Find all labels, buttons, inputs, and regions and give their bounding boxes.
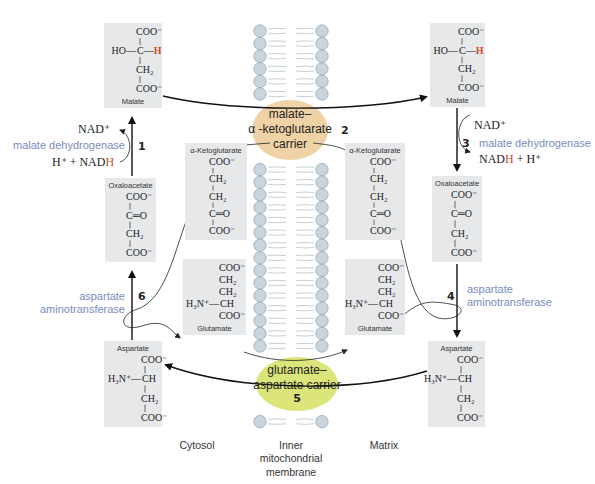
lipid-tail bbox=[268, 91, 286, 92]
structure-row: C═O bbox=[126, 210, 147, 221]
lipid-tail bbox=[268, 84, 286, 85]
structure-row: CH₂ bbox=[370, 191, 387, 202]
molecule-name: Glutamate bbox=[358, 324, 393, 333]
reaction-4: 4 aspartate aminotransferase bbox=[447, 283, 552, 308]
step-number-2: 2 bbox=[341, 124, 349, 137]
lipid-head-icon bbox=[316, 277, 328, 289]
lipid-tail bbox=[296, 79, 314, 80]
structure-row: COO⁻ bbox=[458, 26, 484, 37]
structure-substituent: H₃N⁺— bbox=[424, 373, 458, 384]
lipid-head-icon bbox=[254, 239, 266, 251]
region-label-matrix: Matrix bbox=[370, 439, 399, 451]
structure-row: CH₂ bbox=[378, 286, 395, 297]
lipid-tail bbox=[268, 222, 286, 223]
lipid-tail bbox=[296, 424, 314, 425]
structure-row: COO⁻ bbox=[458, 82, 484, 93]
reaction-6: aspartate aminotransferase 6 bbox=[40, 290, 146, 315]
lipid-tail bbox=[268, 210, 286, 211]
lipid-tail bbox=[268, 192, 286, 193]
lipid-tail bbox=[296, 222, 314, 223]
lipid-tail bbox=[296, 91, 314, 92]
malate-aspartate-shuttle-diagram: malate– α -ketoglutarate carrier 2 gluta… bbox=[0, 0, 595, 484]
lipid-tail bbox=[268, 66, 286, 67]
structure-row: CH bbox=[142, 373, 156, 384]
enzyme-malate-dehydrogenase-3: malate dehydrogenase bbox=[479, 137, 591, 149]
lipid-head-icon bbox=[316, 37, 328, 49]
structure-row: CH₂ bbox=[126, 228, 143, 239]
cofactor-nad-plus: NAD⁺ bbox=[474, 118, 506, 132]
lipid-tail bbox=[296, 28, 314, 29]
molecule-malate-mat: MalateCOO⁻HO—C—HCH₂COO⁻ bbox=[430, 23, 485, 107]
cofactor-nad-plus: NAD⁺ bbox=[78, 122, 110, 136]
lipid-head-icon bbox=[254, 289, 266, 301]
lipid-tail bbox=[296, 235, 314, 236]
structure-row: CH bbox=[220, 298, 234, 309]
lipid-tail bbox=[268, 343, 286, 344]
lipid-head-icon bbox=[316, 189, 328, 201]
lipid-head-icon bbox=[316, 327, 328, 339]
lipid-tail bbox=[268, 46, 286, 47]
lipid-tail bbox=[268, 205, 286, 206]
lipid-tail bbox=[268, 424, 286, 425]
lipid-head-icon bbox=[316, 50, 328, 62]
molecule-asp-cyt: AspartateCOO⁻H₃N⁺—CHCH₂COO⁻ bbox=[104, 341, 167, 427]
structure-row: COO⁻ bbox=[457, 412, 483, 423]
structure-row: C═O bbox=[209, 208, 230, 219]
structure-substituent: H₃N⁺— bbox=[108, 373, 142, 384]
lipid-head-icon bbox=[316, 25, 328, 37]
reaction-3: NAD⁺ 3 malate dehydrogenase NADH + H⁺ bbox=[462, 118, 591, 166]
lipid-head-icon bbox=[254, 50, 266, 62]
lipid-tail bbox=[268, 79, 286, 80]
lipid-tail bbox=[268, 172, 286, 173]
structure-row: CH₂ bbox=[378, 274, 395, 285]
lipid-tail bbox=[268, 293, 286, 294]
lipid-head-icon bbox=[254, 37, 266, 49]
lipid-tail bbox=[296, 298, 314, 299]
lipid-tail bbox=[296, 285, 314, 286]
structure-row: COO⁻ bbox=[219, 310, 245, 321]
lipid-tail bbox=[296, 210, 314, 211]
malate-akg-carrier: malate– α -ketoglutarate carrier 2 bbox=[248, 100, 348, 160]
molecule-name: Aspartate bbox=[440, 344, 472, 353]
lipid-head-icon bbox=[254, 415, 266, 427]
lipid-tail bbox=[268, 285, 286, 286]
lipid-head-icon bbox=[254, 88, 266, 100]
lipid-head-icon bbox=[254, 214, 266, 226]
lipid-tail bbox=[296, 419, 314, 420]
enzyme-aspartate-aminotransferase-4-line1: aspartate bbox=[467, 283, 513, 295]
lipid-tail bbox=[268, 336, 286, 337]
structure-row: COO⁻ bbox=[126, 191, 152, 202]
lipid-tail bbox=[296, 192, 314, 193]
lipid-tail bbox=[296, 180, 314, 181]
lipid-tail bbox=[268, 273, 286, 274]
region-label-membrane-line3: membrane bbox=[266, 466, 316, 478]
cofactor-nadh: NADH + H⁺ bbox=[479, 152, 541, 166]
lipid-head-icon bbox=[254, 176, 266, 188]
lipid-tail bbox=[296, 167, 314, 168]
structure-row: COO⁻ bbox=[378, 262, 404, 273]
structure-row: COO⁻ bbox=[136, 26, 162, 37]
molecule-akg-cyt: α-KetoglutarateCOO⁻CH₂CH₂C═OCOO⁻ bbox=[185, 143, 247, 240]
lipid-tail bbox=[296, 96, 314, 97]
structure-row: CH₂ bbox=[451, 228, 468, 239]
structure-substituent: HO— bbox=[434, 45, 459, 56]
structure-row: COO⁻ bbox=[141, 412, 167, 423]
lipid-tail bbox=[268, 323, 286, 324]
lipid-tail bbox=[296, 336, 314, 337]
structure-row: C—H bbox=[459, 45, 484, 56]
enzyme-aspartate-aminotransferase-6-line2: aminotransferase bbox=[40, 303, 125, 315]
lipid-tail bbox=[268, 348, 286, 349]
lipid-tail bbox=[296, 84, 314, 85]
lipid-tail bbox=[268, 41, 286, 42]
molecule-name: Oxaloacetate bbox=[435, 179, 479, 188]
lipid-tail bbox=[268, 184, 286, 185]
lipid-head-icon bbox=[316, 252, 328, 264]
molecule-oaa-cyt: OxaloacetateCOO⁻C═OCH₂COO⁻ bbox=[105, 178, 156, 262]
lipid-tail bbox=[296, 230, 314, 231]
structure-row: COO⁻ bbox=[370, 156, 396, 167]
lipid-head-icon bbox=[316, 75, 328, 87]
lipid-tail bbox=[296, 268, 314, 269]
lipid-head-icon bbox=[316, 63, 328, 75]
lipid-tail bbox=[268, 235, 286, 236]
lipid-tail bbox=[268, 298, 286, 299]
